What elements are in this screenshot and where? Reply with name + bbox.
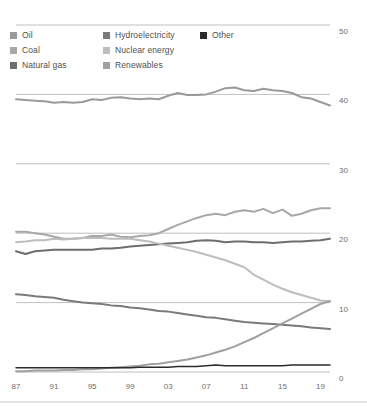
y-axis-tick-label: 40	[339, 96, 348, 105]
y-axis-tick-label: 10	[339, 305, 348, 314]
x-axis-labels: 879195990307111519	[12, 382, 326, 391]
plot-svg: 01020304050 879195990307111519	[0, 0, 367, 413]
y-axis-labels: 01020304050	[339, 27, 348, 383]
y-axis-tick-label: 30	[339, 166, 348, 175]
series-line-other	[16, 365, 330, 368]
y-axis-tick-label: 20	[339, 235, 348, 244]
series-line-nuclear-energy	[16, 238, 330, 301]
series-line-coal	[16, 208, 330, 239]
y-axis-tick-label: 50	[339, 27, 348, 36]
x-axis-tick-label: 19	[316, 382, 325, 391]
x-axis-tick-label: 99	[126, 382, 135, 391]
x-axis-tick-label: 07	[202, 382, 211, 391]
x-axis-tick-label: 15	[278, 382, 287, 391]
gridlines	[0, 25, 367, 402]
x-axis-tick-label: 11	[240, 382, 249, 391]
energy-share-line-chart: Oil Coal Natural gas Hydroelectricity Nu…	[0, 0, 367, 413]
plot-area: 01020304050 879195990307111519	[0, 0, 367, 413]
y-axis-tick-label: 0	[339, 374, 344, 383]
x-axis-tick-label: 91	[50, 382, 59, 391]
x-axis-tick-label: 03	[164, 382, 173, 391]
x-axis-tick-label: 95	[88, 382, 97, 391]
series-lines	[16, 87, 330, 371]
x-axis-tick-label: 87	[12, 382, 21, 391]
series-line-oil	[16, 87, 330, 105]
